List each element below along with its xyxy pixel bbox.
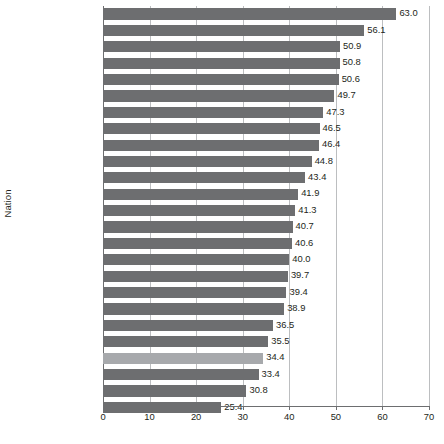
value-label: 36.5 [276,319,294,331]
x-tick-label: 50 [316,411,356,423]
category-label-text: Denmark [0,23,99,35]
bar-row: Spain40.0 [0,252,444,268]
bar-container [103,369,259,380]
bar-container [103,205,295,216]
category-label: Iceland [0,318,99,330]
bar-rows: Sweden63.0Denmark56.1France50.9Norway50.… [0,6,444,416]
category-label-text: Hungary [0,269,99,281]
category-label: Czech Republic [0,302,99,314]
value-label: 33.4 [262,368,280,380]
category-label-text: Portugal [0,204,99,216]
bar-row: Canada43.4 [0,170,444,186]
bar-container [103,189,298,200]
x-tick-mark [429,406,430,410]
bar-container [103,238,292,249]
value-label: 30.8 [249,384,267,396]
bar [103,254,289,265]
bar [103,320,273,331]
category-label-text: Japan [0,384,99,396]
value-label: 40.6 [295,237,313,249]
bar-container [103,74,339,85]
bar-row: Japan30.8 [0,383,444,399]
value-label: 39.7 [291,269,309,281]
bar-row: United States34.4 [0,350,444,366]
bar [103,25,364,36]
bar [103,58,340,69]
category-label-text: Iceland [0,318,99,330]
bar-container [103,8,396,19]
value-label: 35.5 [271,335,289,347]
value-label: 47.3 [326,106,344,118]
category-label: Ireland [0,335,99,347]
bar-row: Belgium49.7 [0,88,444,104]
category-label: Denmark [0,23,99,35]
x-axis-title [103,436,429,444]
bar [103,336,268,347]
value-label: 40.7 [296,220,314,232]
bar-chart: Nation Sweden63.0Denmark56.1France50.9No… [0,0,444,444]
bar-row: Germany44.8 [0,154,444,170]
bar-row: Finland50.6 [0,72,444,88]
bar-container [103,172,305,183]
bar-row: Denmark56.1 [0,22,444,38]
category-label: Italy [0,138,99,150]
x-tick-mark [336,406,337,410]
bar [103,238,292,249]
category-label-text: New Zealand [0,220,99,232]
category-label-text: Ireland [0,335,99,347]
x-tick-label: 40 [269,411,309,423]
bar-row: Greece39.4 [0,285,444,301]
x-tick-mark [196,406,197,410]
bar-row: New Zealand40.7 [0,219,444,235]
bar [103,8,396,19]
value-label: 50.8 [343,56,361,68]
category-label: Spain [0,253,99,265]
bar-container [103,107,323,118]
category-label: Sweden [0,7,99,19]
category-label-text: Greece [0,286,99,298]
category-label: Belgium [0,89,99,101]
category-label: Hungary [0,269,99,281]
bar-row: Hungary39.7 [0,268,444,284]
category-label-text: Belgium [0,89,99,101]
value-label: 49.7 [337,89,355,101]
category-label-text: Italy [0,138,99,150]
bar [103,74,339,85]
category-label-text: Sweden [0,7,99,19]
category-label-text: France [0,40,99,52]
category-label: Norway [0,56,99,68]
bar-row: Austria47.3 [0,104,444,120]
value-label: 56.1 [367,24,385,36]
category-label: Netherlands [0,122,99,134]
category-label: Austria [0,105,99,117]
x-tick-mark [103,406,104,410]
bar-row: United Kingdom40.6 [0,235,444,251]
bar-container [103,271,288,282]
bar-container [103,336,268,347]
bar-row: Norway50.8 [0,55,444,71]
category-label: United States [0,351,99,363]
x-tick-label: 60 [362,411,402,423]
bar-container [103,385,246,396]
value-label: 63.0 [399,7,417,19]
bar-container [103,25,364,36]
bar-container [103,156,312,167]
value-label: 50.9 [343,40,361,52]
bar [103,156,312,167]
category-label: Portugal [0,204,99,216]
bar-container [103,140,319,151]
value-label: 46.5 [323,122,341,134]
value-label: 46.4 [322,138,340,150]
category-label: Finland [0,73,99,85]
bar [103,172,305,183]
x-tick-mark [150,406,151,410]
bar-row: France50.9 [0,39,444,55]
bar-row: Sweden63.0 [0,6,444,22]
bar-container [103,320,273,331]
value-label: 44.8 [315,155,333,167]
bar [103,205,295,216]
value-label: 41.3 [298,204,316,216]
category-label-text: Canada [0,171,99,183]
value-label: 50.6 [342,73,360,85]
category-label-text: Australia [0,368,99,380]
